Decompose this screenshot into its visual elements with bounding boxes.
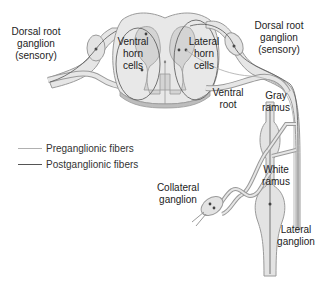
label-dorsal-root-ganglion-left: Dorsal root ganglion (sensory) <box>4 26 68 62</box>
legend-item-postganglionic: Postganglionic fibers <box>18 156 138 172</box>
legend: Preganglionic fibers Postganglionic fibe… <box>18 140 138 172</box>
label-gray-ramus: Gray ramus <box>256 90 296 114</box>
postganglionic-line-swatch <box>18 164 42 165</box>
label-collateral-ganglion: Collateral ganglion <box>150 182 206 206</box>
label-ventral-horn-cells: Ventral horn cells <box>113 36 153 72</box>
legend-label: Preganglionic fibers <box>46 143 134 154</box>
sympathetic-chain <box>192 102 296 276</box>
label-lateral-ganglion: Lateral ganglion <box>274 224 318 248</box>
label-dorsal-root-ganglion-right: Dorsal root ganglion (sensory) <box>244 20 314 56</box>
legend-item-preganglionic: Preganglionic fibers <box>18 140 138 156</box>
label-lateral-horn-cells: Lateral horn cells <box>184 36 224 72</box>
preganglionic-line-swatch <box>18 148 42 149</box>
legend-label: Postganglionic fibers <box>46 159 138 170</box>
label-ventral-root: Ventral root <box>208 87 248 111</box>
label-white-ramus: White ramus <box>256 164 296 188</box>
